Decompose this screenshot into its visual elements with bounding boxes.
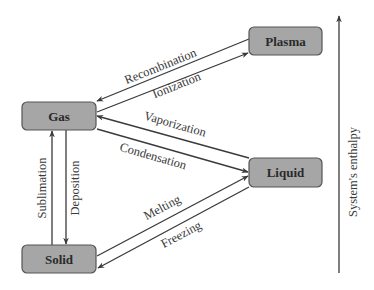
node-gas: Gas: [22, 102, 96, 130]
sublimation-label: Sublimation: [35, 157, 49, 219]
node-plasma: Plasma: [249, 27, 322, 55]
gas-label: Gas: [48, 109, 70, 124]
melting-label: Melting: [141, 192, 183, 223]
enthalpy-axis-label: System's enthalpy: [346, 126, 360, 217]
enthalpy-axis: System's enthalpy: [339, 16, 360, 273]
vaporization-label: Vaporization: [142, 109, 208, 140]
deposition-label: Deposition: [68, 160, 82, 216]
edge-deposition: Deposition: [66, 130, 82, 244]
plasma-label: Plasma: [265, 34, 306, 49]
phase-transition-diagram: Recombination Ionization Vaporization Co…: [0, 0, 374, 290]
liquid-label: Liquid: [267, 165, 305, 180]
node-solid: Solid: [22, 245, 96, 273]
solid-label: Solid: [45, 252, 74, 267]
edge-sublimation: Sublimation: [35, 131, 52, 245]
node-liquid: Liquid: [249, 158, 322, 187]
edge-condensation: Condensation: [97, 129, 248, 173]
